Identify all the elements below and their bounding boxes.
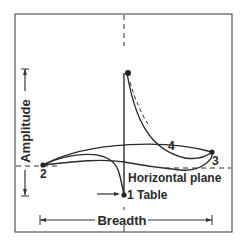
breadth-label: Breadth (97, 213, 146, 228)
table-label: Table (137, 188, 168, 202)
amplitude-label: Amplitude (18, 99, 33, 163)
trajectory-diagram: Amplitude Breadth 2 3 4 1 Table Horizont (0, 0, 242, 249)
point-top (125, 70, 131, 76)
point-3-label: 3 (212, 154, 219, 168)
point-4-label: 4 (168, 139, 175, 153)
point-1-label: 1 (127, 188, 134, 202)
horizontal-plane-label: Horizontal plane (128, 171, 222, 185)
point-1 (121, 192, 126, 197)
point-2-label: 2 (40, 167, 47, 181)
table-arrow (97, 192, 120, 196)
